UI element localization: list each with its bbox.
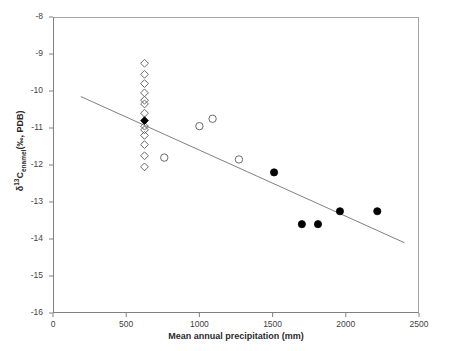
- data-point-diamond-open: [141, 89, 149, 97]
- data-point-diamond-open: [141, 163, 149, 171]
- regression-trendline: [81, 97, 405, 243]
- data-point-circle-filled: [336, 208, 343, 215]
- chart-svg-layer: [0, 0, 467, 351]
- data-point-diamond-open: [141, 109, 149, 117]
- data-point-diamond-open: [141, 152, 149, 160]
- data-point-circle-open: [161, 154, 168, 161]
- data-point-diamond-open: [141, 132, 149, 140]
- data-point-circle-filled: [270, 169, 277, 176]
- data-point-circle-open: [209, 115, 216, 122]
- data-points-group: [141, 59, 381, 227]
- data-point-circle-open: [196, 122, 203, 129]
- data-point-diamond-filled: [141, 117, 149, 125]
- data-point-circle-filled: [374, 208, 381, 215]
- data-point-circle-filled: [314, 221, 321, 228]
- data-point-diamond-open: [141, 59, 149, 67]
- axis-ticks-group: [49, 17, 419, 317]
- trendline-group: [81, 97, 405, 243]
- data-point-circle-open: [235, 156, 242, 163]
- data-point-diamond-open: [141, 70, 149, 78]
- data-point-diamond-open: [141, 141, 149, 149]
- data-point-diamond-open: [141, 80, 149, 88]
- data-point-circle-filled: [298, 221, 305, 228]
- chart-figure: δ13Cenamel(‰, PDB) Mean annual precipita…: [0, 0, 467, 351]
